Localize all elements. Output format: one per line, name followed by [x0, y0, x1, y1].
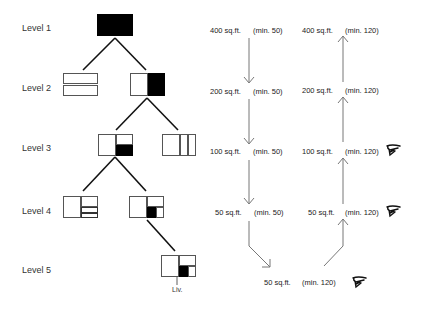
level-4-left-top [81, 196, 98, 207]
pointing-hand-icon [386, 205, 402, 219]
bottom-area: 50 sq.ft. [264, 278, 291, 287]
right-area-2: 200 sq.ft. [302, 86, 333, 95]
left-min-2: (min. 50) [253, 87, 283, 96]
level-5-small [188, 266, 196, 277]
left-min-3: (min. 50) [253, 147, 283, 156]
level-5-white [161, 255, 179, 277]
bottom-min: (min. 120) [302, 278, 336, 287]
right-min-3: (min. 120) [345, 147, 379, 156]
level-1-box [97, 14, 133, 36]
level-2-right-white [130, 73, 148, 96]
level-5-top [179, 255, 196, 266]
right-area-4: 50 sq.ft. [308, 208, 335, 217]
right-area-1: 400 sq.ft. [302, 26, 333, 35]
level-2-right-black [148, 73, 165, 96]
level-3-left-bottom-black [116, 145, 133, 156]
left-min-4: (min. 50) [254, 208, 284, 217]
left-area-3: 100 sq.ft. [210, 147, 241, 156]
left-area-2: 200 sq.ft. [210, 87, 241, 96]
pointing-hand-icon [386, 144, 402, 158]
level-4-right-small [156, 207, 164, 218]
right-min-1: (min. 120) [345, 26, 379, 35]
right-area-3: 100 sq.ft. [302, 147, 333, 156]
pointing-hand-icon [352, 276, 368, 290]
level-4-right-black [147, 207, 156, 218]
level-3-right-white [162, 134, 180, 156]
left-area-4: 50 sq.ft. [215, 208, 242, 217]
level-3-right-strip-1 [180, 134, 188, 156]
level-3-left-white [98, 134, 116, 156]
liv-label: Liv. [172, 286, 182, 293]
level-4-left-white [63, 196, 81, 218]
right-min-2: (min. 120) [345, 86, 379, 95]
level-3-left-top [116, 134, 133, 145]
level-4-right-top [147, 196, 164, 207]
level-2-left-bottom-bar [63, 85, 98, 96]
level-4-right-white [129, 196, 147, 218]
level-5-living-black [179, 266, 188, 277]
left-min-1: (min. 50) [253, 26, 283, 35]
level-4-left-strip-2 [81, 213, 98, 219]
level-3-right-strip-2 [188, 134, 196, 156]
right-min-4: (min. 120) [345, 208, 379, 217]
left-area-1: 400 sq.ft. [210, 26, 241, 35]
level-2-left-top-bar [63, 73, 98, 84]
